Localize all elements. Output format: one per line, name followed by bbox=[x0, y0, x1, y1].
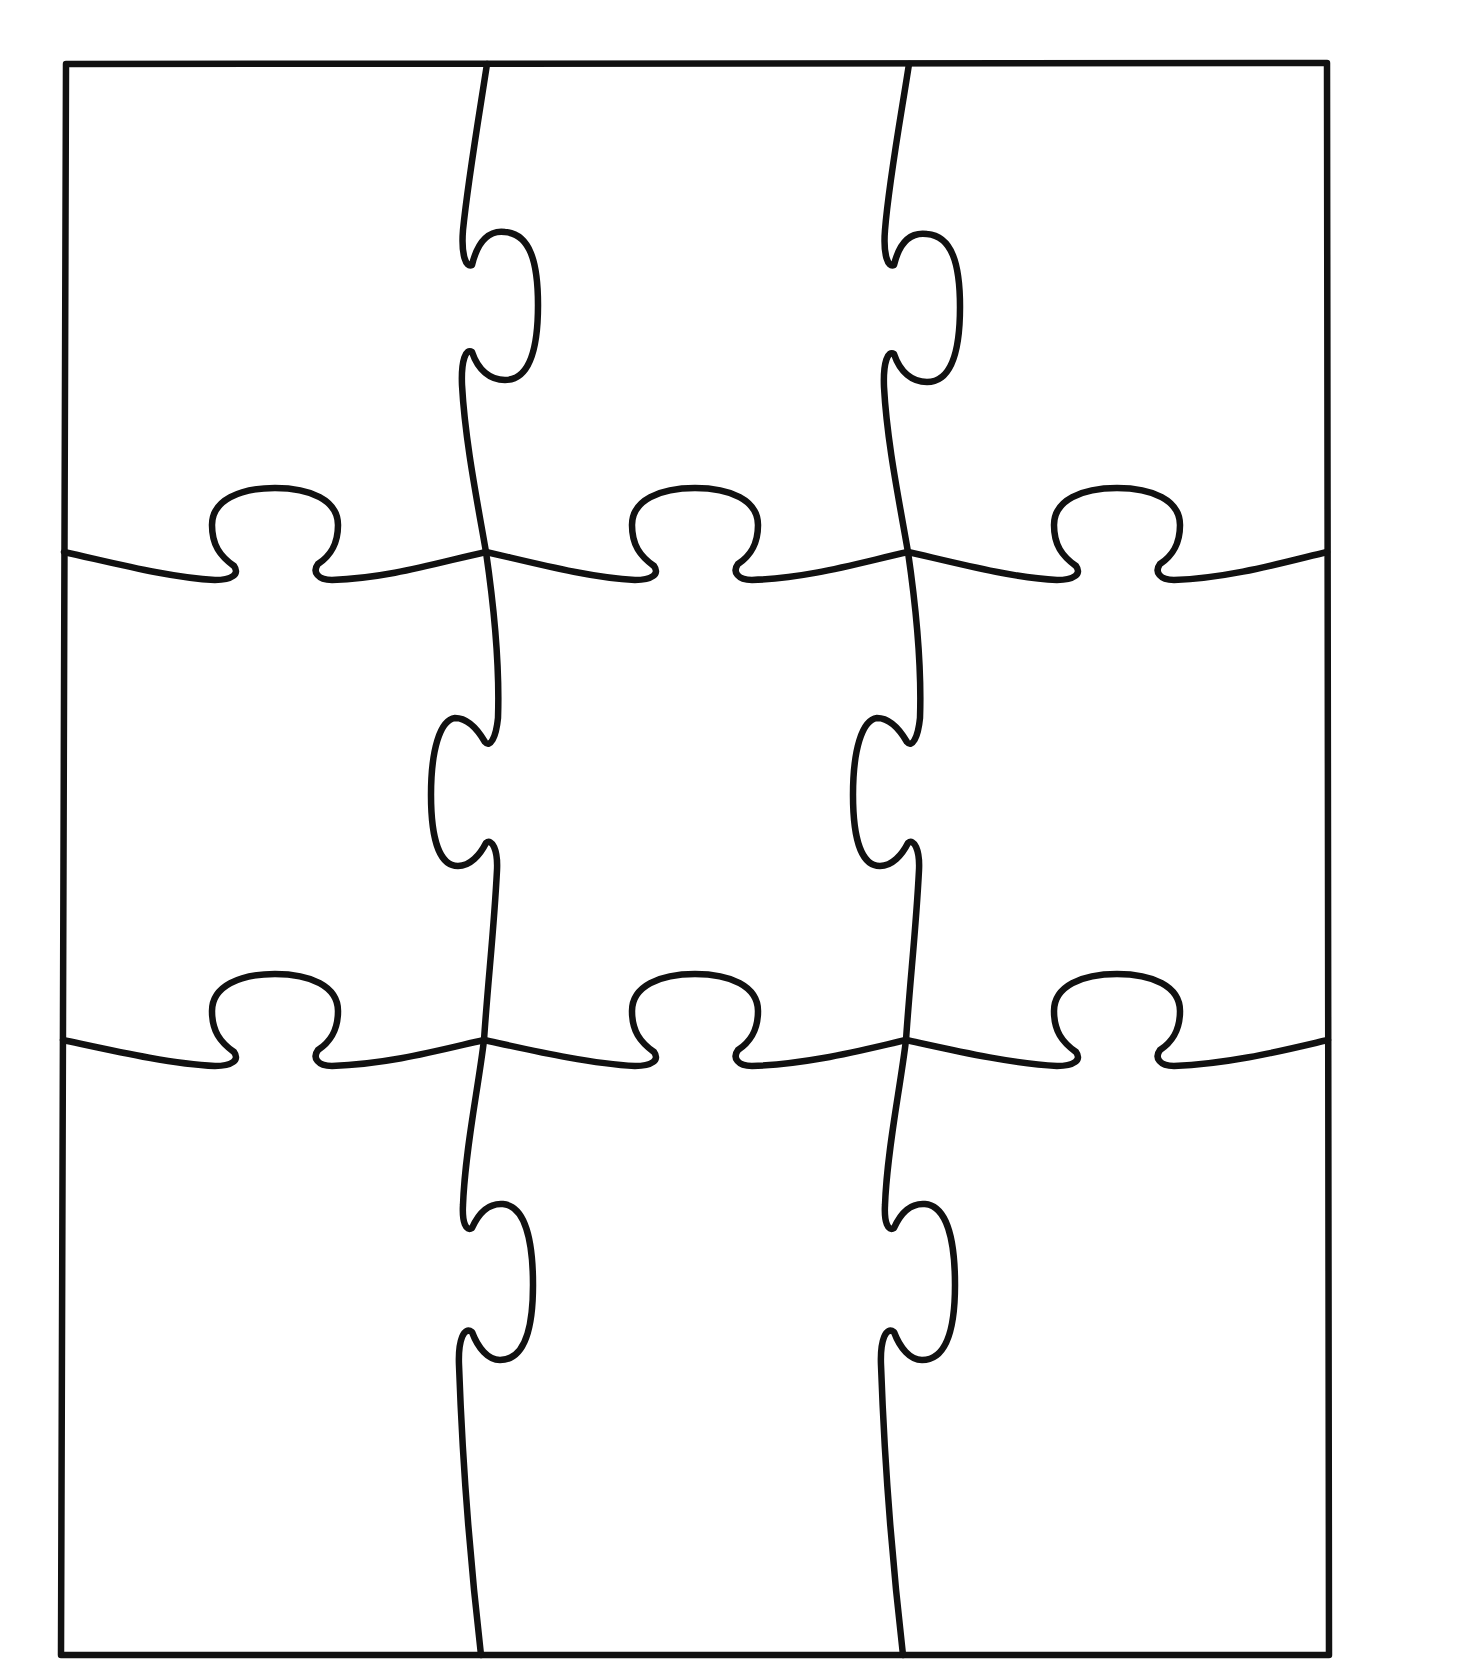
piece-regions bbox=[64, 64, 1326, 1654]
puzzle-piece-6 bbox=[908, 552, 1326, 1038]
puzzle-template: 3x3 jigsaw puzzle template Piece 1 Piece… bbox=[0, 0, 1477, 1673]
puzzle-piece-1 bbox=[64, 64, 484, 550]
puzzle-piece-7 bbox=[64, 1040, 484, 1654]
puzzle-piece-4 bbox=[64, 552, 484, 1038]
puzzle-piece-5 bbox=[486, 552, 906, 1038]
puzzle-piece-2 bbox=[486, 64, 906, 550]
puzzle-drawing bbox=[0, 0, 1477, 1673]
puzzle-piece-9 bbox=[908, 1040, 1326, 1654]
puzzle-piece-8 bbox=[486, 1040, 906, 1654]
puzzle-piece-3 bbox=[908, 64, 1326, 550]
